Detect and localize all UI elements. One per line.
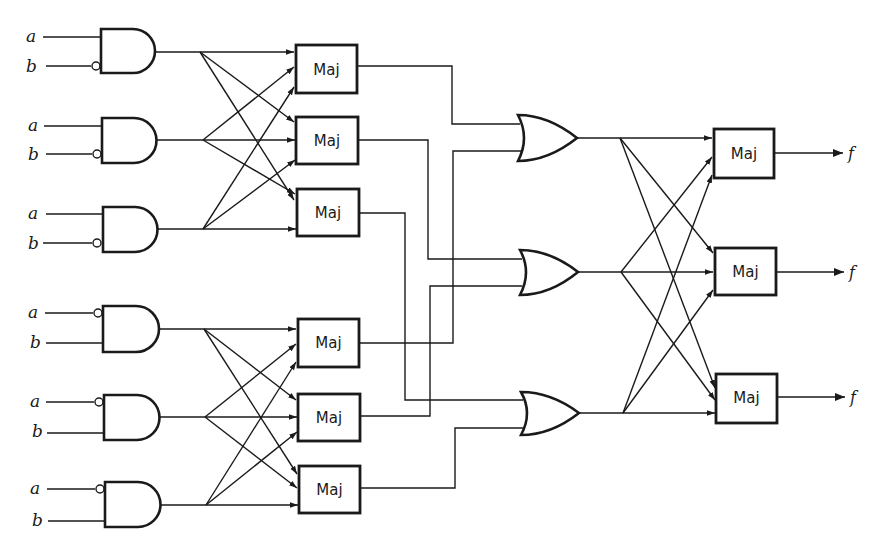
maj-label: Maj [316,481,342,499]
and-gate-3: a b [28,203,158,253]
maj-label: Maj [313,61,339,79]
output-label-f: f [849,388,859,407]
output-label-f: f [847,144,857,163]
input-label-a: a [30,478,40,498]
input-label-a: a [28,203,38,223]
and-gate-1: a b [26,26,155,76]
maj-label: Maj [731,145,757,163]
maj-label: Maj [733,389,759,407]
maj-voter-1: Maj [296,45,357,93]
inverter-bubble-icon [96,485,104,493]
input-label-a: a [26,26,36,46]
maj-label: Maj [315,204,341,222]
input-label-b: b [26,56,37,76]
or-gate-3 [521,392,579,435]
maj-voter-3: Maj [297,189,359,236]
maj-voter-5: Maj [298,394,360,441]
maj-label: Maj [314,132,340,150]
and-gate-6: a b [30,478,161,530]
inverter-bubble-icon [92,62,100,70]
input-label-b: b [28,144,39,164]
input-label-a: a [28,302,38,322]
logic-circuit-diagram: a b a b a b a b a b [0,0,890,557]
and-gate-2: a b [28,115,157,164]
maj-voter-6: Maj [299,466,360,513]
fanout-upper [155,52,296,229]
inverter-bubble-icon [93,239,101,247]
inverter-bubble-icon [94,309,102,317]
maj-voter-2: Maj [296,117,358,164]
final-maj-voter-1: Maj f [714,129,857,178]
output-label-f: f [848,263,858,282]
or-gate-2 [520,250,578,295]
input-label-b: b [32,421,43,441]
or-gate-1 [518,115,577,161]
input-label-a: a [28,115,38,135]
inverter-bubble-icon [93,150,101,158]
maj-label: Maj [732,263,758,281]
inverter-bubble-icon [95,398,103,406]
and-gate-5: a b [30,391,160,441]
fanout-final [577,138,715,413]
input-label-b: b [32,510,43,530]
maj-label: Maj [316,409,342,427]
input-label-a: a [30,391,40,411]
input-label-b: b [28,233,39,253]
routing-maj-to-or [357,66,523,488]
final-maj-voter-2: Maj f [715,248,858,295]
final-maj-voter-3: Maj f [716,374,859,423]
maj-label: Maj [315,334,341,352]
fanout-lower [159,329,298,505]
maj-voter-4: Maj [298,319,359,367]
input-label-b: b [30,332,41,352]
and-gate-4: a b [28,302,159,352]
